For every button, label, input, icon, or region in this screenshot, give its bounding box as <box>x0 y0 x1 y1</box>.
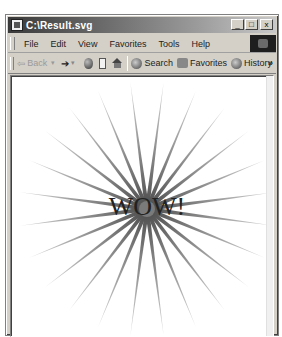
menu-help[interactable]: Help <box>185 39 216 49</box>
browser-window: C:\Result.svg _ □ x File Edit View Favor… <box>5 14 279 336</box>
document-viewport: WOW! <box>10 75 274 337</box>
menu-tools[interactable]: Tools <box>152 39 185 49</box>
search-label: Search <box>144 58 173 68</box>
menu-view[interactable]: View <box>72 39 103 49</box>
windows-logo-throbber <box>250 35 276 52</box>
search-button[interactable]: Search <box>131 58 173 69</box>
menu-grip[interactable] <box>10 37 15 50</box>
close-button[interactable]: x <box>260 19 273 30</box>
wow-text: WOW! <box>109 192 186 221</box>
toolbar-grip[interactable] <box>10 57 14 70</box>
favorites-label: Favorites <box>190 58 227 68</box>
starburst-graphic: WOW! <box>11 76 273 336</box>
window-title: C:\Result.svg <box>26 20 93 31</box>
toolbar-overflow-chevron-icon[interactable]: » <box>268 58 273 68</box>
home-icon[interactable] <box>112 58 120 68</box>
back-arrow-icon: ⇦ <box>17 58 25 69</box>
stop-icon[interactable] <box>84 58 92 69</box>
caption-buttons: _ □ x <box>230 19 273 30</box>
favorites-button[interactable]: Favorites <box>177 58 227 68</box>
scrollbar-edge[interactable] <box>266 76 273 336</box>
forward-button[interactable]: ➔ ▾ <box>61 58 77 69</box>
app-icon <box>11 19 23 31</box>
refresh-icon[interactable] <box>99 58 106 69</box>
search-icon <box>131 58 142 69</box>
maximize-button[interactable]: □ <box>245 19 258 30</box>
forward-arrow-icon: ➔ <box>61 58 69 69</box>
history-button[interactable]: History <box>231 58 272 69</box>
back-dropdown-icon[interactable]: ▾ <box>51 59 55 67</box>
back-label: Back <box>27 58 47 68</box>
favorites-icon <box>177 58 188 68</box>
forward-dropdown-icon[interactable]: ▾ <box>71 59 75 67</box>
menu-file[interactable]: File <box>18 39 45 49</box>
back-button[interactable]: ⇦ Back ▾ <box>17 58 57 69</box>
toolbar-separator <box>127 56 129 71</box>
title-bar[interactable]: C:\Result.svg _ □ x <box>8 17 276 33</box>
menu-bar: File Edit View Favorites Tools Help <box>8 35 276 53</box>
menu-favorites[interactable]: Favorites <box>103 39 152 49</box>
menu-edit[interactable]: Edit <box>45 39 73 49</box>
standard-toolbar: ⇦ Back ▾ ➔ ▾ Search Favorites History » <box>8 53 276 74</box>
minimize-button[interactable]: _ <box>231 19 244 30</box>
history-icon <box>231 58 242 69</box>
